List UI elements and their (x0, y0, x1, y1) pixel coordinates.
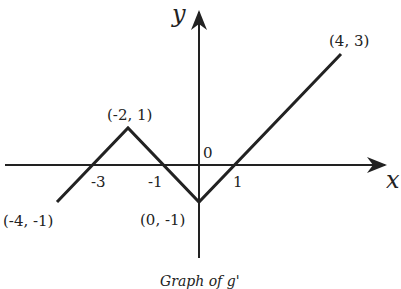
origin-label: 0 (203, 144, 213, 162)
point-label: (0, -1) (140, 211, 185, 229)
chart: y x 0 -3 -1 1 (-4, -1) (-2, 1) (0, -1) (… (0, 0, 401, 289)
x-axis-label: x (386, 166, 400, 194)
y-axis-label: y (171, 0, 186, 28)
x-tick-label: -3 (91, 173, 106, 191)
point-label: (-2, 1) (107, 106, 152, 124)
x-tick-label: -1 (148, 173, 163, 191)
x-tick-label: 1 (233, 173, 243, 191)
point-label: (4, 3) (329, 32, 369, 50)
chart-caption: Graph of g' (160, 273, 240, 289)
point-label: (-4, -1) (3, 212, 53, 230)
